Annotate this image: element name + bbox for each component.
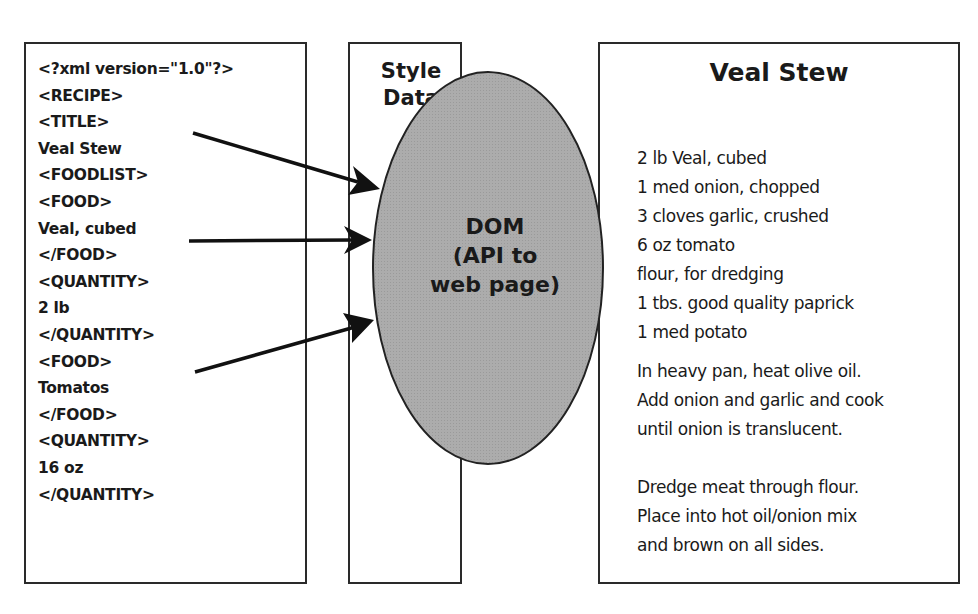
- arrow-icon: [189, 226, 372, 254]
- dom-label: DOM (API to web page): [410, 212, 580, 299]
- dom-label-line: DOM: [410, 212, 580, 241]
- arrow-icon: [193, 133, 380, 195]
- dom-label-line: web page): [410, 270, 580, 299]
- dom-label-line: (API to: [410, 241, 580, 270]
- diagram-overlay: [0, 0, 978, 614]
- arrow-icon: [195, 313, 374, 372]
